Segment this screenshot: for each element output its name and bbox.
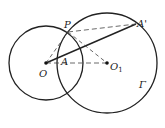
label-A: A <box>60 56 68 67</box>
geometry-diagram: P A' O A O1 Γ <box>0 0 165 128</box>
label-O: O <box>39 68 47 79</box>
label-gamma: Γ <box>138 79 147 90</box>
segment-P-O1 <box>68 32 107 63</box>
label-A-prime: A' <box>136 18 147 29</box>
label-P: P <box>63 19 71 30</box>
point-O1 <box>105 61 109 65</box>
point-O <box>44 61 48 65</box>
label-O1: O1 <box>110 61 123 74</box>
